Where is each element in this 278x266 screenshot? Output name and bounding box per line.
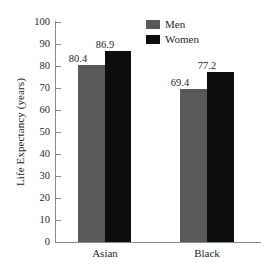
legend-item-women: Women (146, 32, 199, 46)
y-tick-label-30: 30 (20, 171, 50, 181)
y-tick-label-80-wrap: 80 (17, 61, 50, 71)
life-expectancy-bar-chart: Life Expectancy (years) 100 90 80 70 60 … (0, 0, 278, 266)
bar-black-women (207, 72, 234, 242)
x-category-label-asian: Asian (70, 247, 140, 260)
legend-label-women: Women (165, 33, 199, 45)
y-tick-0 (56, 242, 61, 243)
y-tick-label-40: 40 (20, 149, 50, 159)
y-tick-label-100: 100 (20, 17, 50, 27)
x-category-label-black: Black (172, 247, 242, 260)
y-tick-label-0: 0 (20, 237, 50, 247)
y-tick-label-100-wrap: 100 (17, 17, 50, 27)
y-tick-label-80: 80 (20, 61, 50, 71)
bar-asian-men (78, 65, 105, 242)
legend-label-men: Men (165, 18, 185, 30)
value-label-asian-men: 80.4 (61, 53, 95, 64)
y-tick-label-20-wrap: 20 (17, 193, 50, 203)
y-tick-label-30-wrap: 30 (17, 171, 50, 181)
value-label-black-men: 69.4 (163, 77, 197, 88)
legend: Men Women (146, 17, 199, 47)
legend-swatch-women-icon (146, 35, 160, 44)
y-tick-label-50: 50 (20, 127, 50, 137)
y-tick-label-0-wrap: 0 (17, 237, 50, 247)
y-tick-label-60-wrap: 60 (17, 105, 50, 115)
value-label-black-women: 77.2 (190, 60, 224, 71)
y-tick-label-70: 70 (20, 83, 50, 93)
y-tick-label-40-wrap: 40 (17, 149, 50, 159)
y-tick-label-10-wrap: 10 (17, 215, 50, 225)
y-tick-label-60: 60 (20, 105, 50, 115)
y-tick-label-70-wrap: 70 (17, 83, 50, 93)
legend-item-men: Men (146, 17, 199, 31)
y-tick-label-90: 90 (20, 39, 50, 49)
y-tick-label-20: 20 (20, 193, 50, 203)
x-axis-line (55, 242, 261, 243)
bar-asian-women (105, 51, 131, 242)
y-tick-label-10: 10 (20, 215, 50, 225)
legend-swatch-men-icon (146, 20, 160, 29)
bar-black-men (180, 89, 207, 242)
y-tick-label-50-wrap: 50 (17, 127, 50, 137)
y-tick-label-90-wrap: 90 (17, 39, 50, 49)
value-label-asian-women: 86.9 (88, 39, 122, 50)
